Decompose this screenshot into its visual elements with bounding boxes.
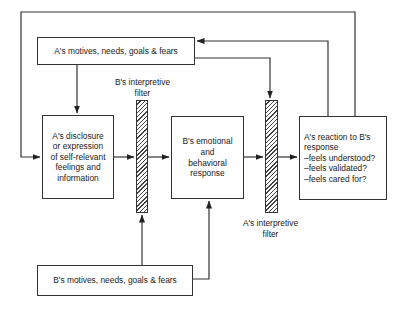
edge-reaction-to-a-motives (197, 41, 328, 116)
edge-a-motives-to-a-filter (195, 58, 270, 98)
edge-b-motives-to-response (193, 201, 209, 279)
b-interpretive-filter (136, 100, 148, 213)
a-disclosure-box: A's disclosure or expression of self-rel… (42, 115, 114, 199)
a-motives-box: A's motives, needs, goals & fears (37, 37, 195, 65)
b-response-box: B's emotional and behavioral response (171, 116, 244, 199)
a-motives-label: A's motives, needs, goals & fears (54, 46, 178, 57)
b-filter-label: B's interpretive filter (100, 77, 185, 98)
a-reaction-box: A's reaction to B's response –feels unde… (299, 116, 387, 200)
a-filter-label: A's interpretive filter (228, 218, 313, 239)
b-motives-label: B's motives, needs, goals & fears (53, 275, 177, 286)
b-motives-box: B's motives, needs, goals & fears (37, 265, 193, 296)
a-interpretive-filter (265, 100, 278, 213)
